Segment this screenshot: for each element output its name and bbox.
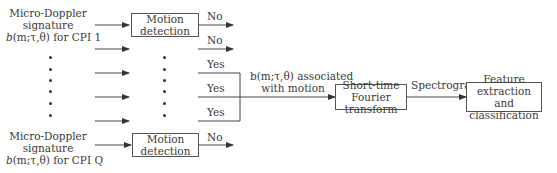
branch-label-yes: Yes	[207, 82, 225, 94]
motion-detection-box-last: Motion detection	[132, 133, 199, 157]
box-label-line: detection	[140, 25, 190, 37]
input-label-line: Micro-Doppler	[9, 7, 87, 19]
signal-args: (m;τ,θ)	[13, 154, 50, 166]
box-label-line: Fourier transform	[336, 91, 406, 115]
signal-symbol: b	[6, 154, 13, 166]
label-line: with motion	[261, 82, 325, 94]
box-label-line: Feature extraction	[467, 73, 541, 97]
branch-label-no: No	[207, 131, 223, 143]
ellipsis-dot	[49, 114, 52, 117]
cpi-index: for CPI Q	[50, 154, 103, 166]
feature-extraction-box: Feature extraction and classification	[466, 82, 542, 112]
motion-detection-box-first: Motion detection	[131, 13, 199, 37]
branch-label-yes: Yes	[207, 106, 225, 118]
signal-args: (m;τ,θ)	[13, 31, 50, 43]
input-label-line: signature	[23, 19, 74, 31]
stft-box: Short-time Fourier transform	[335, 84, 407, 110]
ellipsis-dot	[49, 68, 52, 71]
ellipsis-dot	[163, 56, 166, 59]
ellipsis-dot	[163, 90, 166, 93]
branch-label-yes: Yes	[207, 58, 225, 70]
branch-label-no: No	[207, 10, 223, 22]
ellipsis-dot	[163, 102, 166, 105]
box-label-line: Motion	[141, 133, 191, 145]
ellipsis-dot	[49, 102, 52, 105]
signal-symbol: b	[6, 31, 13, 43]
cpi-index: for CPI 1	[50, 31, 101, 43]
input-label-cpi-1: Micro-Doppler signature b(m;τ,θ) for CPI…	[6, 7, 90, 43]
ellipsis-dot	[163, 68, 166, 71]
branch-label-no: No	[207, 34, 223, 46]
box-label-line: detection	[141, 145, 191, 157]
ellipsis-dot	[163, 79, 166, 82]
input-label-cpi-q: Micro-Doppler signature b(m;τ,θ) for CPI…	[6, 130, 90, 166]
ellipsis-dot	[49, 79, 52, 82]
input-label-line: Micro-Doppler	[9, 130, 87, 142]
ellipsis-dot	[49, 90, 52, 93]
ellipsis-dot	[49, 56, 52, 59]
box-label-line: and classification	[467, 97, 541, 121]
input-label-line: signature	[23, 142, 74, 154]
motion-signal-label: b(m;τ,θ) associated with motion	[250, 70, 336, 94]
box-label-line: Short-time	[336, 79, 406, 91]
box-label-line: Motion	[140, 13, 190, 25]
ellipsis-dot	[163, 114, 166, 117]
